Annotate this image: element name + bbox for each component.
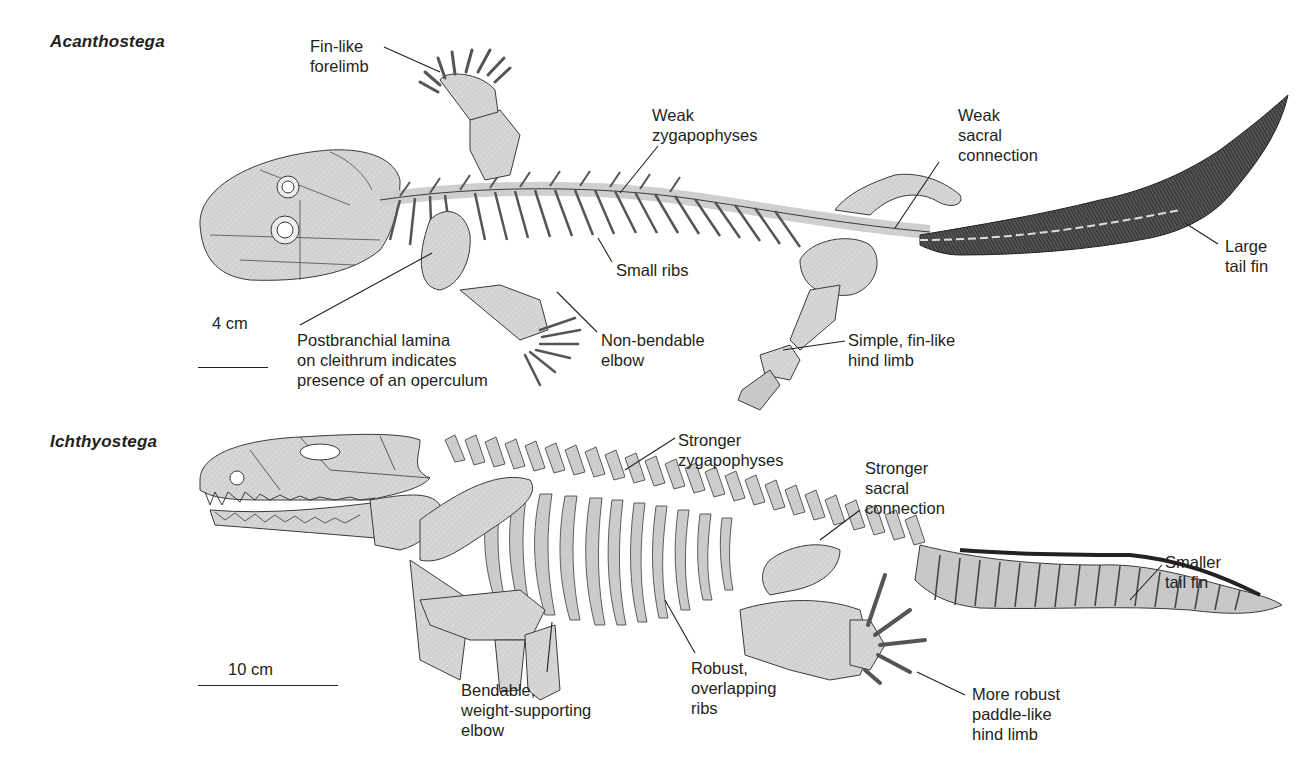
label-large-tail-fin: Large tail fin xyxy=(1225,236,1268,276)
label-postbranchial-lamina: Postbranchial lamina on cleithrum indica… xyxy=(297,330,488,390)
species-title-ichthyostega: Ichthyostega xyxy=(50,432,157,452)
label-weak-zygapophyses: Weak zygapophyses xyxy=(652,105,758,145)
scale-bar-10cm xyxy=(198,685,338,686)
scale-label-4cm: 4 cm xyxy=(212,314,248,333)
label-smaller-tail-fin: Smaller tail fin xyxy=(1165,552,1221,592)
label-bendable-elbow: Bendable, weight-supporting elbow xyxy=(461,680,591,740)
label-stronger-zygapophyses: Stronger zygapophyses xyxy=(678,430,784,470)
label-small-ribs: Small ribs xyxy=(616,260,688,280)
label-fin-like-forelimb: Fin-like forelimb xyxy=(310,36,369,76)
label-paddle-hind-limb: More robust paddle-like hind limb xyxy=(972,684,1060,744)
scale-label-10cm: 10 cm xyxy=(228,660,273,679)
species-title-acanthostega: Acanthostega xyxy=(50,32,165,52)
label-non-bendable-elbow: Non-bendable elbow xyxy=(601,330,705,370)
label-weak-sacral-connection: Weak sacral connection xyxy=(958,105,1038,165)
label-simple-hind-limb: Simple, fin-like hind limb xyxy=(848,330,955,370)
scale-bar-4cm xyxy=(198,367,268,368)
label-robust-ribs: Robust, overlapping ribs xyxy=(691,658,776,718)
label-stronger-sacral-connection: Stronger sacral connection xyxy=(865,458,945,518)
